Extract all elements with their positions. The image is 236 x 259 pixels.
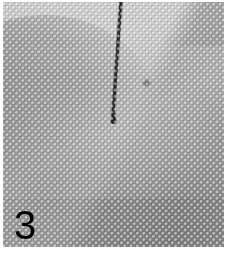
paper-margin-right [224,0,236,259]
paper-margin-bottom [0,247,236,259]
dark-fleck-artifact [143,80,150,86]
figure-panel: 3 [0,0,236,259]
panel-number-label: 3 [14,205,36,245]
